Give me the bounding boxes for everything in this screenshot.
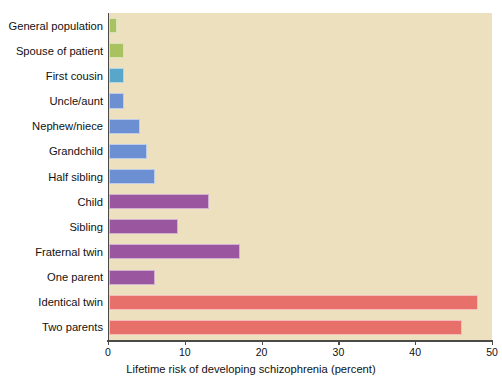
y-axis-label: Child: [0, 196, 103, 208]
bars-layer: [109, 13, 492, 340]
bar-chart: General populationSpouse of patientFirst…: [0, 0, 502, 380]
x-axis-tick: [185, 340, 186, 345]
y-axis-label: Uncle/aunt: [0, 95, 103, 107]
bar: [109, 270, 155, 285]
y-axis-label: Two parents: [0, 321, 103, 333]
bar-row: [109, 18, 492, 33]
x-axis-tick-label: 50: [486, 346, 498, 358]
x-axis-tick-label: 10: [179, 346, 191, 358]
bar: [109, 169, 155, 184]
bar: [109, 43, 124, 58]
x-axis-tick-label: 0: [105, 346, 111, 358]
bar-row: [109, 169, 492, 184]
x-axis-tick: [262, 340, 263, 345]
bar-row: [109, 295, 492, 310]
bar: [109, 244, 240, 259]
bar: [109, 144, 147, 159]
y-axis-label: Nephew/niece: [0, 120, 103, 132]
bar: [109, 295, 478, 310]
x-axis-tick: [108, 340, 109, 345]
bar-row: [109, 93, 492, 108]
bar-row: [109, 244, 492, 259]
bar-row: [109, 270, 492, 285]
bar-row: [109, 320, 492, 335]
y-axis-label: Fraternal twin: [0, 246, 103, 258]
y-axis-label: First cousin: [0, 70, 103, 82]
bar: [109, 93, 124, 108]
bar: [109, 18, 117, 33]
y-axis-label: Half sibling: [0, 171, 103, 183]
bar: [109, 68, 124, 83]
y-axis-label: General population: [0, 20, 103, 32]
y-axis-label: Grandchild: [0, 145, 103, 157]
plot-area: [108, 13, 492, 340]
bar: [109, 320, 462, 335]
bar: [109, 219, 178, 234]
x-axis-tick-label: 30: [333, 346, 345, 358]
bar-row: [109, 219, 492, 234]
y-axis-label: Identical twin: [0, 296, 103, 308]
y-axis-label: Spouse of patient: [0, 45, 103, 57]
y-axis-label: Sibling: [0, 221, 103, 233]
bar-row: [109, 68, 492, 83]
bar-row: [109, 119, 492, 134]
x-axis-tick-label: 40: [409, 346, 421, 358]
x-axis-tick: [492, 340, 493, 345]
bar: [109, 119, 140, 134]
y-axis-category-labels: General populationSpouse of patientFirst…: [0, 13, 103, 340]
x-axis-line: [107, 340, 493, 342]
bar-row: [109, 194, 492, 209]
x-axis-title: Lifetime risk of developing schizophreni…: [0, 363, 502, 376]
x-axis-tick: [415, 340, 416, 345]
y-axis-label: One parent: [0, 271, 103, 283]
x-axis-tick-label: 20: [256, 346, 268, 358]
bar-row: [109, 144, 492, 159]
x-axis-tick: [338, 340, 339, 345]
bar-row: [109, 43, 492, 58]
bar: [109, 194, 209, 209]
